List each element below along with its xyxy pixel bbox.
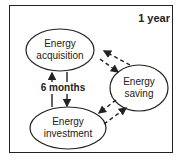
arrow-investment-to-saving <box>104 108 126 124</box>
node-saving-label: Energy saving <box>110 76 168 100</box>
node-investment-label: Energy investment <box>30 116 106 140</box>
period-label: 1 year <box>130 12 170 24</box>
arrow-acquisition-to-saving <box>100 59 118 72</box>
node-acquisition-line1: Energy <box>26 38 94 50</box>
inner-period-label: 6 months <box>38 82 88 94</box>
node-saving-line1: Energy <box>110 76 168 88</box>
arrow-saving-to-investment <box>99 100 116 113</box>
node-investment-line2: investment <box>30 128 106 140</box>
node-investment-line1: Energy <box>30 116 106 128</box>
node-acquisition-line2: acquisition <box>26 50 94 62</box>
arrow-saving-to-acquisition <box>104 51 130 65</box>
node-saving-line2: saving <box>110 88 168 100</box>
node-acquisition-label: Energy acquisition <box>26 38 94 62</box>
